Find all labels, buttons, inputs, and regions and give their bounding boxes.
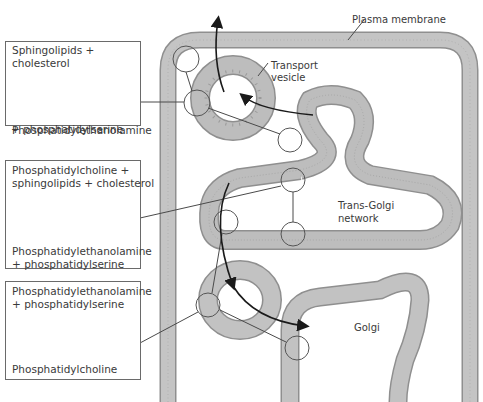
panel-2-bottom-line1: Phosphatidylethanolamine [12, 245, 152, 258]
panel-trans-golgi-lipids: Phosphatidylcholine + sphingolipids + ch… [5, 160, 141, 269]
label-trans-golgi-1: Trans-Golgi [338, 200, 394, 212]
panel-2-bottom-line2: + phosphatidylserine [12, 258, 124, 271]
label-trans-golgi-2: network [338, 213, 379, 225]
golgi-vesicle [208, 270, 272, 330]
golgi-cisterna [290, 282, 420, 402]
panel-golgi-lipids: Phosphatidylethanolamine + phosphatidyls… [5, 281, 141, 380]
label-golgi: Golgi [354, 322, 380, 334]
trans-golgi-network [209, 95, 453, 240]
panel-3-top-line2: + phosphatidylserine [12, 298, 124, 311]
lipid-distribution-diagram: Sphingolipids + cholesterol Phosphatidyl… [0, 0, 483, 402]
panel-3-bottom-line1: Phosphatidylcholine [12, 363, 117, 376]
panel-2-top-line2: sphingolipids + cholesterol [12, 177, 154, 190]
label-transport-vesicle-2: vesicle [271, 72, 306, 84]
panel-plasma-membrane-lipids: Sphingolipids + cholesterol Phosphatidyl… [5, 41, 141, 126]
label-transport-vesicle-1: Transport [271, 60, 318, 72]
label-plasma-membrane: Plasma membrane [352, 14, 446, 26]
panel-1-top-line1: Sphingolipids + [12, 44, 94, 57]
panel-1-bottom-line2: + phosphatidylserine [11, 123, 123, 135]
panel-2-top-line1: Phosphatidylcholine + [12, 164, 129, 177]
transport-vesicle [200, 65, 266, 131]
panel-3-top-line1: Phosphatidylethanolamine [12, 285, 152, 298]
panel-1-top-line2: cholesterol [12, 57, 70, 70]
